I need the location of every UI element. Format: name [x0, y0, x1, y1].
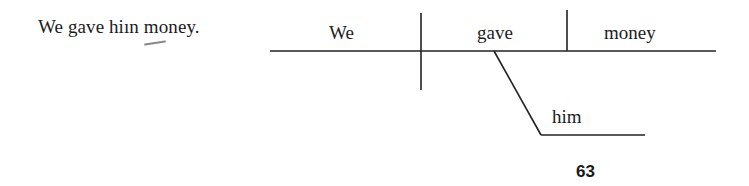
indirect-object-slant: [494, 51, 541, 135]
subject-word: We: [329, 22, 354, 44]
verb-word: gave: [477, 22, 513, 44]
direct-object-word: money: [604, 22, 656, 44]
page-number: 63: [576, 162, 595, 182]
indirect-object-word: him: [552, 106, 582, 128]
